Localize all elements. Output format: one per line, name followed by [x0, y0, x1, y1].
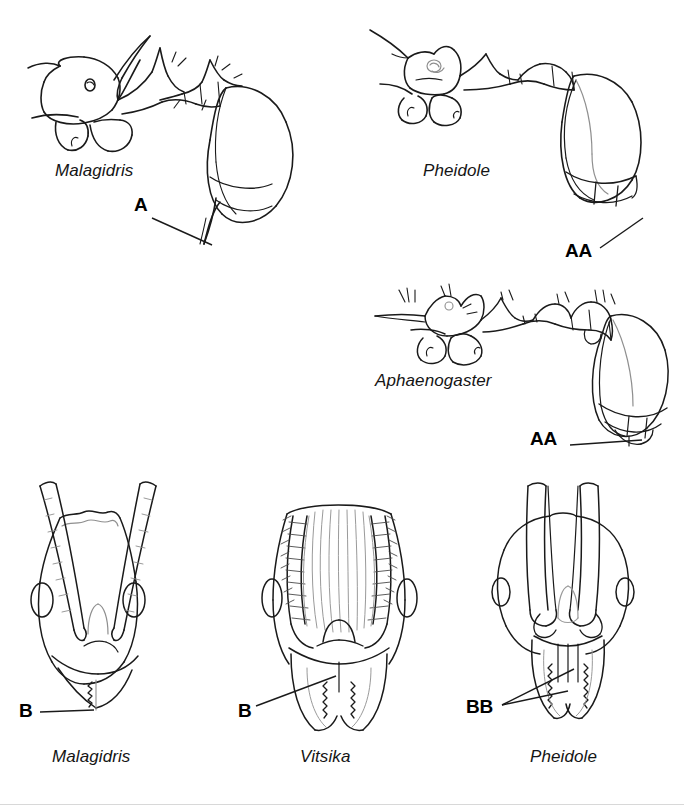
genus-label-vitsika-head: Vitsika — [300, 747, 350, 767]
figure-plate: Malagidris A — [0, 0, 684, 805]
genus-label-pheidole-lateral: Pheidole — [423, 161, 490, 181]
callout-label-aa-aphaenogaster: AA — [530, 428, 557, 450]
panel-malagidris-head — [8, 470, 198, 730]
leader-lines-bb-pheidole — [500, 655, 590, 715]
callout-label-b-malagidris: B — [19, 700, 33, 722]
genus-label-malagidris-lateral: Malagidris — [55, 161, 133, 181]
genus-label-aphaenogaster-lateral: Aphaenogaster — [375, 371, 492, 391]
leader-line-b-vitsika — [254, 672, 344, 712]
leader-line-a — [140, 205, 230, 255]
leader-line-b-malagidris — [38, 700, 100, 724]
genus-label-malagidris-head: Malagidris — [52, 747, 130, 767]
callout-label-b-vitsika: B — [238, 700, 252, 722]
callout-label-aa-pheidole: AA — [565, 240, 592, 262]
genus-label-pheidole-head: Pheidole — [530, 747, 597, 767]
leader-line-aa-pheidole — [595, 212, 655, 254]
leader-line-aa-aphaenogaster — [568, 428, 650, 452]
callout-label-bb-pheidole: BB — [466, 696, 493, 718]
malagidris-head-drawing — [8, 470, 198, 730]
